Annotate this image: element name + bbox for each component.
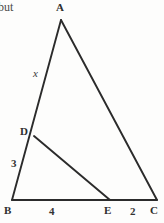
segment-ac [61,20,157,200]
segment-de [34,136,110,200]
measure-label-db: 3 [11,158,17,169]
vertex-label-d: D [20,126,28,137]
diagram-page: but A B C D E x 3 4 2 [0,0,164,223]
measure-label-be: 4 [49,206,55,217]
triangle-figure [0,0,164,223]
vertex-label-b: B [4,205,11,216]
vertex-label-e: E [104,205,111,216]
vertex-label-a: A [56,2,64,13]
measure-label-ad: x [33,68,38,79]
segment-ab [12,20,61,200]
vertex-label-c: C [150,205,158,216]
measure-label-ec: 2 [130,206,136,217]
